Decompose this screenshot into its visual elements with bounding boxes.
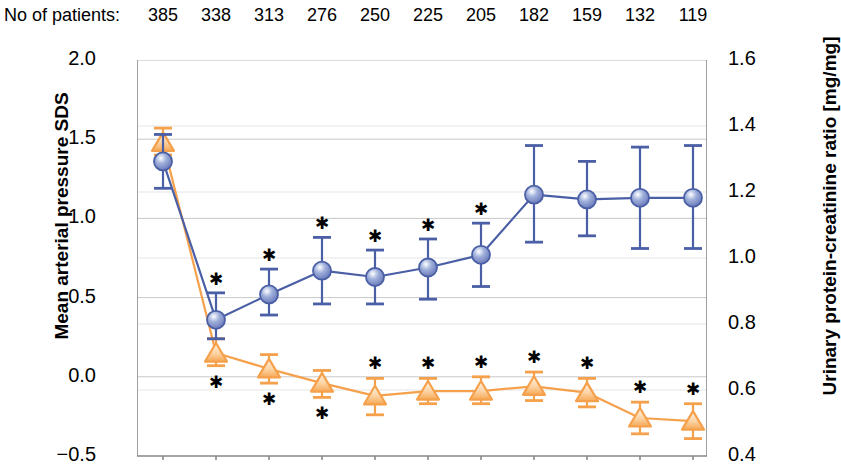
data-point-circle — [260, 285, 278, 303]
significance-star-upcr: ✱ — [421, 354, 435, 373]
patient-count: 385 — [139, 5, 187, 26]
left-tick-label: 1.0 — [36, 205, 96, 228]
plot-area: ✱✱✱✱✱✱✱✱✱✱✱✱✱✱✱✱ — [137, 60, 707, 456]
left-tick-label: −0.5 — [36, 443, 96, 466]
significance-star-map: ✱ — [262, 246, 276, 265]
data-point-circle — [472, 246, 490, 264]
left-tick-label: 2.0 — [36, 47, 96, 70]
right-tick-label: 0.4 — [728, 443, 788, 466]
patients-label: No of patients: — [4, 5, 120, 26]
significance-star-upcr: ✱ — [527, 348, 541, 367]
significance-star-upcr: ✱ — [580, 354, 594, 373]
significance-star-upcr: ✱ — [633, 378, 647, 397]
patient-count: 119 — [669, 5, 717, 26]
patient-count: 338 — [192, 5, 240, 26]
patient-count: 205 — [457, 5, 505, 26]
patient-count: 250 — [351, 5, 399, 26]
right-tick-label: 1.4 — [728, 113, 788, 136]
data-point-triangle — [205, 343, 227, 362]
patient-count: 182 — [510, 5, 558, 26]
significance-star-map: ✱ — [421, 216, 435, 235]
data-point-circle — [684, 189, 702, 207]
right-tick-label: 0.8 — [728, 311, 788, 334]
significance-star-upcr: ✱ — [368, 354, 382, 373]
patients-header-row: No of patients: 385338313276250225205182… — [0, 2, 839, 32]
data-point-triangle — [311, 373, 333, 392]
significance-star-upcr: ✱ — [209, 373, 223, 392]
patient-count: 159 — [563, 5, 611, 26]
data-point-circle — [313, 262, 331, 280]
right-axis-title: Urinary protein-creatinine ratio [mg/mg] — [819, 0, 841, 436]
patient-count: 225 — [404, 5, 452, 26]
data-point-circle — [154, 152, 172, 170]
left-tick-label: 0.0 — [36, 364, 96, 387]
significance-star-map: ✱ — [315, 214, 329, 233]
data-point-triangle — [629, 408, 651, 427]
significance-star-map: ✱ — [368, 227, 382, 246]
patient-count: 313 — [245, 5, 293, 26]
data-point-circle — [207, 311, 225, 329]
data-point-circle — [525, 186, 543, 204]
left-tick-label: 0.5 — [36, 285, 96, 308]
significance-star-upcr: ✱ — [474, 353, 488, 372]
patient-count: 276 — [298, 5, 346, 26]
right-tick-label: 1.2 — [728, 179, 788, 202]
significance-star-map: ✱ — [474, 200, 488, 219]
patient-count: 132 — [616, 5, 664, 26]
significance-star-upcr: ✱ — [315, 404, 329, 423]
significance-star-map: ✱ — [209, 270, 223, 289]
data-point-triangle — [523, 376, 545, 395]
right-tick-label: 1.0 — [728, 245, 788, 268]
significance-star-upcr: ✱ — [262, 390, 276, 409]
right-tick-label: 0.6 — [728, 377, 788, 400]
data-point-circle — [366, 268, 384, 286]
data-point-circle — [578, 190, 596, 208]
data-point-circle — [419, 259, 437, 277]
series-map — [154, 134, 702, 338]
significance-star-upcr: ✱ — [686, 380, 700, 399]
data-point-circle — [631, 189, 649, 207]
left-tick-label: 1.5 — [36, 126, 96, 149]
right-tick-label: 1.6 — [728, 47, 788, 70]
chart-svg: ✱✱✱✱✱✱✱✱✱✱✱✱✱✱✱✱ — [137, 60, 707, 460]
data-point-triangle — [258, 359, 280, 378]
